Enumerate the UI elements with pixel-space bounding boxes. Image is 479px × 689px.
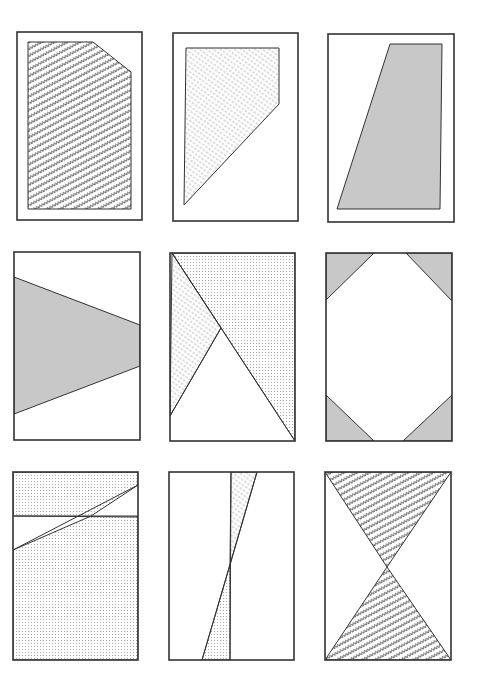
panel-8 xyxy=(169,472,294,660)
panel-1 xyxy=(17,32,142,220)
panel-5 xyxy=(170,253,295,441)
panel-3 xyxy=(328,34,454,222)
figure-canvas xyxy=(0,0,479,689)
panel-9 xyxy=(325,472,451,660)
panel-4 xyxy=(14,252,140,440)
panel-6 xyxy=(326,253,452,441)
pentagon-zigzag xyxy=(28,42,131,209)
panels-layer xyxy=(13,32,454,660)
panel-7 xyxy=(13,472,138,660)
shape-panels-figure xyxy=(0,0,479,689)
panel-2 xyxy=(173,33,298,221)
